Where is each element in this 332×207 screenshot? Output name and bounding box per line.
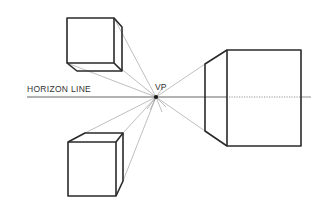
box-on-horizon xyxy=(205,50,301,146)
vanishing-point xyxy=(154,95,158,99)
horizon-label: HORIZON LINE xyxy=(27,84,91,94)
cube-above-horizon xyxy=(67,18,122,71)
vp-label: VP xyxy=(155,82,167,92)
perspective-diagram: HORIZON LINE VP xyxy=(0,0,332,207)
cube-below-horizon xyxy=(68,133,123,196)
convergence-guides xyxy=(67,18,205,181)
